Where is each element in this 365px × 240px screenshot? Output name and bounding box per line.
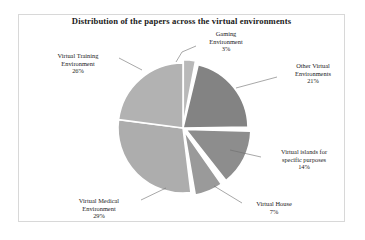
slice-label-line2: Environment xyxy=(56,205,142,213)
slice-label-virtual-islands-specific-purposes: Virtual islands for specific purposes 14… xyxy=(262,148,346,171)
slice-label-line1: Virtual House xyxy=(243,200,305,208)
slice-label-line2: specific purposes xyxy=(262,156,346,164)
slice-label-line1: Virtual islands for xyxy=(262,148,346,156)
slice-label-line1: Other Virtual xyxy=(278,62,348,70)
slice-label-line2: Environment xyxy=(36,60,120,68)
slice-label-value: 3% xyxy=(196,45,256,53)
slice-label-line1: Virtual Medical xyxy=(56,197,142,205)
leader-line-training xyxy=(119,58,142,70)
slice-label-value: 14% xyxy=(262,163,346,171)
leader-line-other xyxy=(236,77,277,88)
pie-chart-plot xyxy=(0,0,365,240)
pie-slices xyxy=(118,60,251,195)
slice-label-line2: Environments xyxy=(278,70,348,78)
slice-label-virtual-training-environment: Virtual Training Environment 26% xyxy=(36,52,120,75)
leader-line-medical xyxy=(141,188,166,200)
slice-label-line1: Virtual Training xyxy=(36,52,120,60)
slice-label-virtual-medical-environment: Virtual Medical Environment 29% xyxy=(56,197,142,220)
slice-label-other-virtual-environments: Other Virtual Environments 21% xyxy=(278,62,348,85)
pie-slice-virtual-medical-environment[interactable] xyxy=(118,120,191,193)
slice-label-line2: Environment xyxy=(196,38,256,46)
slice-label-line1: Gaming xyxy=(196,30,256,38)
pie-slice-virtual-training-environment[interactable] xyxy=(119,63,183,128)
slice-label-virtual-house: Virtual House 7% xyxy=(243,200,305,215)
leader-line-house xyxy=(214,186,242,203)
slice-label-gaming-environment: Gaming Environment 3% xyxy=(196,30,256,53)
slice-label-value: 7% xyxy=(243,208,305,216)
slice-label-value: 29% xyxy=(56,212,142,220)
slice-label-value: 26% xyxy=(36,67,120,75)
slice-label-value: 21% xyxy=(278,77,348,85)
